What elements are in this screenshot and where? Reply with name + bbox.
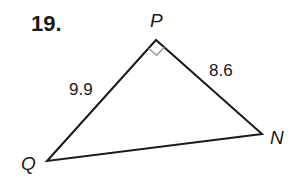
triangle-pqn <box>47 40 262 161</box>
vertex-label-p: P <box>150 10 163 31</box>
vertex-label-n: N <box>270 127 284 148</box>
triangle-diagram: P Q N 9.9 8.6 <box>0 0 298 195</box>
vertex-label-q: Q <box>21 153 36 174</box>
right-angle-marker <box>149 47 165 55</box>
side-length-pn: 8.6 <box>209 61 233 80</box>
side-length-qp: 9.9 <box>69 80 93 99</box>
